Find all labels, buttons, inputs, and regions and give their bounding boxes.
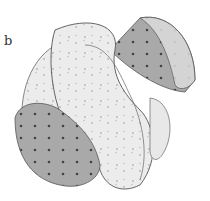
- right-front-ring: [150, 98, 170, 159]
- upper-right-dark-cylinder: [110, 17, 195, 92]
- knot-illustration: [0, 0, 210, 201]
